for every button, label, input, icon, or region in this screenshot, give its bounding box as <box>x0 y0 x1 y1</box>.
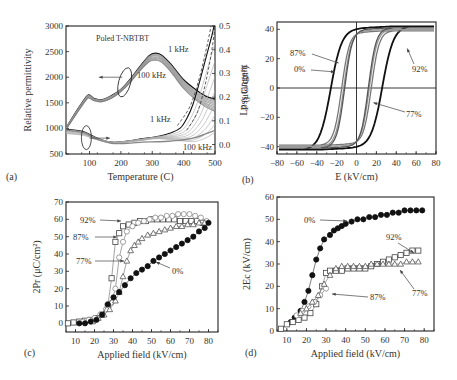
y-axis-label: Relative permittivity <box>22 48 33 131</box>
x-tick-label: 100 <box>83 158 97 168</box>
data-point <box>88 319 93 324</box>
data-point <box>196 229 201 234</box>
data-point <box>290 319 295 324</box>
annotation-label: 77% <box>76 256 92 266</box>
panel-a-permittivity-chart: 10020030040050050010001500200025003000Te… <box>6 14 249 183</box>
chart-title: Poled T-NBTBT <box>96 34 149 43</box>
x-tick-label: 20 <box>90 336 100 346</box>
data-point <box>77 321 82 326</box>
data-point <box>145 264 150 269</box>
data-point <box>122 283 127 288</box>
loss-tangent-curve <box>66 79 227 143</box>
data-point <box>162 251 167 256</box>
x-tick-label: 500 <box>208 158 222 168</box>
annotation-label: 1 kHz <box>150 114 171 124</box>
x-tick-label: 60 <box>380 335 390 345</box>
y-tick-label: 0 <box>270 83 275 93</box>
y-tick-label: 20 <box>265 281 275 291</box>
x-tick-label: 50 <box>361 335 371 345</box>
data-point <box>185 238 190 243</box>
x-tick-label: −40 <box>310 158 325 168</box>
data-point <box>415 259 421 264</box>
data-point <box>100 312 105 317</box>
data-point <box>134 270 139 275</box>
data-point <box>120 274 126 279</box>
y2-tick-label: 0.5 <box>219 21 231 31</box>
data-point <box>65 321 70 326</box>
x-tick-label: 30 <box>322 335 332 345</box>
panel-c-remanent-polarization-chart: 1020304050607080010203040506070Applied f… <box>24 197 218 361</box>
data-point <box>404 259 410 264</box>
x-tick-label: 20 <box>372 158 382 168</box>
data-point <box>120 224 125 229</box>
data-point <box>390 210 395 215</box>
data-point <box>414 208 419 213</box>
x-tick-label: 50 <box>147 336 157 346</box>
x-tick-label: 70 <box>400 335 410 345</box>
y2-tick-label: 0.3 <box>219 68 231 78</box>
x-axis-label: Temperature (C) <box>107 171 173 183</box>
permittivity-curve <box>66 57 215 129</box>
data-point <box>71 320 76 325</box>
y2-tick-label: 0.4 <box>219 45 231 55</box>
arrowhead-icon <box>120 259 124 262</box>
x-tick-label: 80 <box>204 336 214 346</box>
data-point <box>355 217 360 222</box>
data-point <box>147 217 152 222</box>
data-point <box>408 208 413 213</box>
data-point <box>349 219 354 224</box>
data-point <box>361 217 366 222</box>
y-tick-label: −20 <box>260 112 275 122</box>
data-point <box>120 239 125 244</box>
y-tick-label: 60 <box>54 214 64 224</box>
data-point <box>373 215 378 220</box>
data-point <box>117 231 122 236</box>
data-point <box>314 257 319 262</box>
annotation-label: 100 kHz <box>183 142 212 152</box>
annotation-label: 87% <box>73 232 89 242</box>
y-tick-label: 40 <box>265 237 275 247</box>
annotation-label: 77% <box>412 288 428 298</box>
x-tick-label: 30 <box>109 336 119 346</box>
data-point <box>153 215 158 220</box>
data-point <box>402 208 407 213</box>
data-point <box>168 248 173 253</box>
annotation-arrow <box>320 220 347 221</box>
y-tick-label: 2500 <box>45 47 64 57</box>
x-tick-label: 40 <box>341 335 351 345</box>
y-tick-label: 30 <box>54 266 64 276</box>
arrowhead-icon <box>106 137 110 140</box>
data-point <box>164 213 169 218</box>
arrowhead-icon <box>400 270 403 274</box>
data-point <box>193 213 198 218</box>
data-point <box>139 235 145 240</box>
x-tick-label: 20 <box>302 335 312 345</box>
data-point <box>392 255 397 260</box>
data-point <box>130 224 135 229</box>
y2-tick-label: 0.2 <box>219 92 230 102</box>
x-axis-label: E (kV/cm) <box>335 171 378 183</box>
y-tick-label: 1500 <box>45 98 64 108</box>
x-tick-label: 40 <box>392 158 402 168</box>
annotation-label: 92% <box>412 64 428 74</box>
x-tick-label: 40 <box>128 336 138 346</box>
y-tick-label: 50 <box>54 232 64 242</box>
panel-label: (c) <box>24 347 35 359</box>
data-point <box>302 299 307 304</box>
data-point <box>327 232 332 237</box>
data-point <box>378 212 383 217</box>
annotation-label: 77% <box>406 109 422 119</box>
y-tick-label: 40 <box>265 24 275 34</box>
x-tick-label: −20 <box>330 158 345 168</box>
data-point <box>151 258 156 263</box>
data-point <box>284 322 289 327</box>
x-tick-label: 60 <box>166 336 176 346</box>
y-tick-label: 500 <box>50 149 64 159</box>
x-tick-label: 0 <box>354 158 359 168</box>
annotation-label: 0% <box>172 266 183 276</box>
y-tick-label: 30 <box>265 259 275 269</box>
data-point <box>396 210 401 215</box>
data-point <box>318 246 323 251</box>
data-point <box>384 212 389 217</box>
y-tick-label: 70 <box>54 197 64 207</box>
